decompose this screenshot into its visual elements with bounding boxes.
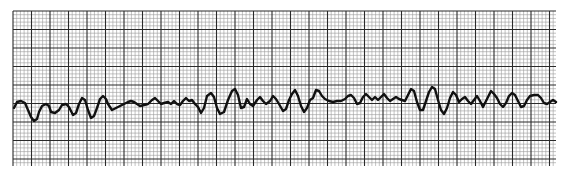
ecg-strip [0,0,571,178]
